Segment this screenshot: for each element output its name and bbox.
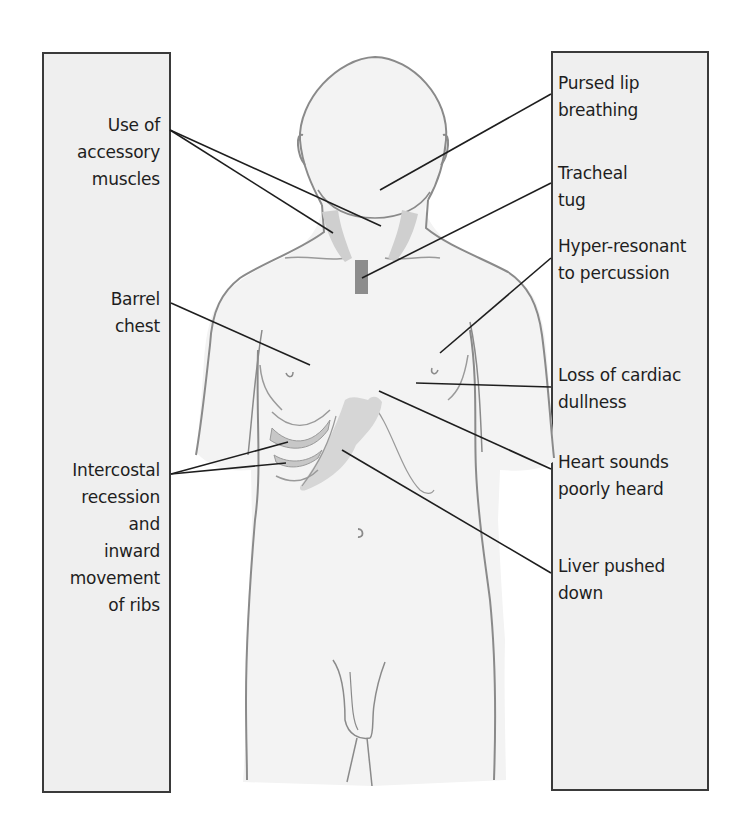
- label-intercostal-recession: Intercostal recession and inward movemen…: [70, 457, 160, 619]
- label-hyper-resonant: Hyper-resonant to percussion: [558, 233, 686, 287]
- label-cardiac-dullness: Loss of cardiac dullness: [558, 362, 681, 416]
- label-liver: Liver pushed down: [558, 553, 665, 607]
- label-pursed-lip: Pursed lip breathing: [558, 70, 639, 124]
- diagram-stage: Use of accessory muscles Barrel chest In…: [0, 0, 750, 832]
- label-tracheal-tug: Tracheal tug: [558, 160, 627, 214]
- trachea: [355, 260, 368, 294]
- label-accessory-muscles: Use of accessory muscles: [77, 112, 160, 193]
- label-barrel-chest: Barrel chest: [111, 286, 160, 340]
- label-heart-sounds: Heart sounds poorly heard: [558, 449, 669, 503]
